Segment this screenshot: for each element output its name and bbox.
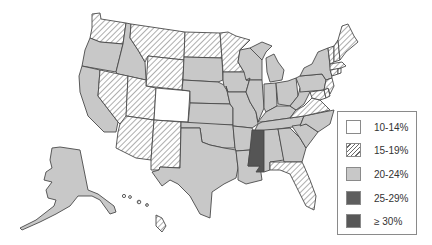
legend-label: 10-14% bbox=[374, 122, 408, 133]
legend: 10-14% 15-19% 20-24% 25-29% ≥ 30% bbox=[337, 111, 417, 235]
state-HI-island bbox=[146, 204, 149, 207]
state-PA bbox=[296, 74, 326, 92]
state-WA bbox=[90, 13, 126, 44]
state-WY bbox=[146, 56, 184, 90]
legend-item-10-14: 10-14% bbox=[346, 119, 408, 135]
swatch-darker-gray bbox=[346, 214, 361, 228]
state-KS bbox=[188, 103, 233, 125]
state-ND bbox=[184, 32, 222, 58]
state-AZ bbox=[116, 116, 154, 160]
legend-label: 20-24% bbox=[374, 169, 408, 180]
state-ME bbox=[338, 24, 358, 60]
legend-item-20-24: 20-24% bbox=[346, 166, 408, 182]
legend-label: 25-29% bbox=[374, 193, 408, 204]
swatch-dark-gray bbox=[346, 191, 361, 205]
legend-label: 15-19% bbox=[374, 145, 408, 156]
state-HI-island bbox=[129, 196, 132, 199]
state-CO bbox=[154, 88, 190, 122]
state-HI-island bbox=[122, 194, 125, 197]
swatch-white bbox=[346, 120, 361, 134]
state-AK bbox=[20, 147, 116, 230]
legend-label: ≥ 30% bbox=[374, 216, 402, 227]
state-SD bbox=[183, 57, 223, 82]
state-FL bbox=[270, 162, 316, 210]
state-HI bbox=[156, 215, 166, 232]
swatch-hatch bbox=[346, 143, 361, 157]
legend-item-25-29: 25-29% bbox=[346, 190, 408, 206]
state-HI-island bbox=[137, 200, 141, 204]
legend-item-15-19: 15-19% bbox=[346, 142, 408, 158]
state-MD bbox=[310, 90, 326, 100]
state-NM bbox=[151, 120, 181, 170]
legend-item-30-plus: ≥ 30% bbox=[346, 213, 402, 229]
swatch-light-gray bbox=[346, 167, 361, 181]
